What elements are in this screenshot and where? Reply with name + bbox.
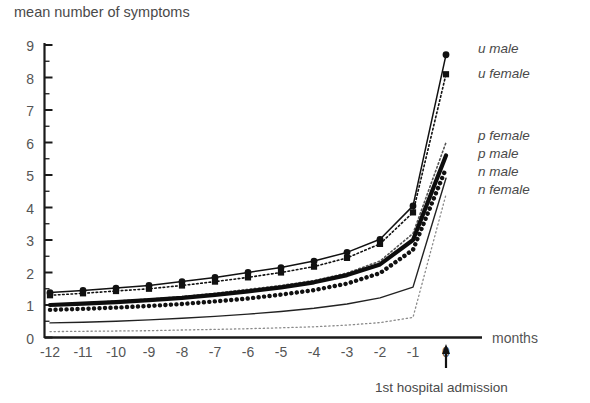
x-tick-label: -4	[308, 344, 321, 360]
series-p-male	[50, 156, 446, 306]
y-axis-tick-labels: 0123456789	[26, 38, 34, 347]
series-line	[50, 195, 446, 332]
data-point-marker	[377, 241, 383, 247]
y-tick-label: 6	[26, 136, 34, 152]
y-tick-label: 4	[26, 201, 34, 217]
series-line	[50, 156, 446, 306]
x-tick-label: -12	[40, 344, 60, 360]
series-u-female	[47, 71, 449, 298]
x-tick-label: -9	[143, 344, 156, 360]
x-tick-label: -5	[275, 344, 288, 360]
series-line	[50, 74, 446, 295]
x-axis-tick-labels: -12-11-10-9-8-7-6-5-4-3-2-10	[40, 344, 450, 360]
legend-item-p-male: p male	[477, 146, 519, 161]
y-tick-label: 3	[26, 233, 34, 249]
y-tick-label: 2	[26, 266, 34, 282]
admission-label: 1st hospital admission	[375, 380, 508, 395]
x-tick-label: -11	[73, 344, 92, 360]
data-point-marker	[47, 292, 53, 298]
data-point-marker	[344, 249, 351, 256]
series-baseline	[50, 195, 446, 332]
data-point-marker	[113, 288, 119, 294]
data-point-marker	[179, 282, 185, 288]
x-tick-label: -6	[242, 344, 255, 360]
data-series-layer	[47, 51, 450, 331]
legend-item-n-female: n female	[478, 182, 530, 197]
x-tick-label: -2	[374, 344, 387, 360]
data-point-marker	[212, 279, 218, 285]
x-tick-label: -10	[106, 344, 126, 360]
data-point-marker	[245, 274, 251, 280]
data-point-marker	[410, 209, 416, 215]
x-tick-label: -8	[176, 344, 189, 360]
x-axis: -12-11-10-9-8-7-6-5-4-3-2-10 months	[40, 330, 538, 360]
data-point-marker	[311, 264, 317, 270]
x-tick-label: -7	[209, 344, 222, 360]
data-point-marker	[80, 290, 86, 296]
data-point-marker	[311, 258, 318, 265]
data-point-marker	[443, 51, 450, 58]
legend-item-u-male: u male	[478, 41, 519, 56]
x-tick-label: -3	[341, 344, 354, 360]
data-point-marker	[146, 286, 152, 292]
y-tick-label: 1	[26, 298, 34, 314]
chart-legend: u maleu femalep femalep malen malen fema…	[477, 41, 530, 197]
data-point-marker	[443, 71, 449, 77]
y-tick-label: 7	[26, 103, 34, 119]
chart-canvas: mean number of symptoms 0123456789 -12-1…	[0, 0, 590, 403]
y-tick-label: 5	[26, 168, 34, 184]
x-tick-label: -1	[407, 344, 420, 360]
data-point-marker	[344, 255, 350, 261]
y-tick-label: 0	[26, 331, 34, 347]
y-tick-label: 9	[26, 38, 34, 54]
y-axis: 0123456789	[26, 38, 52, 347]
legend-item-p-female: p female	[477, 128, 530, 143]
legend-item-n-male: n male	[478, 164, 519, 179]
x-axis-title: months	[492, 330, 538, 346]
y-tick-label: 8	[26, 71, 34, 87]
symptoms-line-chart: mean number of symptoms 0123456789 -12-1…	[0, 0, 590, 403]
chart-title: mean number of symptoms	[14, 4, 190, 20]
data-point-marker	[278, 269, 284, 275]
legend-item-u-female: u female	[478, 66, 530, 81]
